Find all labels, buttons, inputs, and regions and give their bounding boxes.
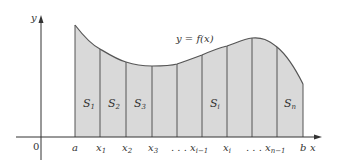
svg-text:x2: x2	[122, 142, 133, 155]
svg-text:. . . xi−1: . . . xi−1	[171, 142, 208, 155]
x-axis-arrow-icon	[314, 135, 322, 140]
x-axis-label: x	[310, 142, 316, 153]
svg-text:a: a	[72, 142, 78, 153]
svg-text:xi: xi	[223, 142, 231, 155]
y-axis-label: y	[30, 12, 37, 23]
y-axis-arrow-icon	[39, 15, 44, 23]
tick-labels: a x1 x2 x3 . . . xi−1 xi . . . xn−1 b	[72, 142, 306, 155]
svg-text:b: b	[300, 142, 306, 153]
svg-text:x3: x3	[148, 142, 159, 155]
curve-label: y = f(x)	[175, 33, 214, 44]
origin-label: 0	[33, 141, 39, 152]
svg-text:. . . xn−1: . . . xn−1	[246, 142, 286, 155]
svg-text:x1: x1	[96, 142, 106, 155]
riemann-strips-diagram: y x 0 y = f(x) a x1 x2 x3 . . . xi−1 xi …	[0, 0, 353, 167]
